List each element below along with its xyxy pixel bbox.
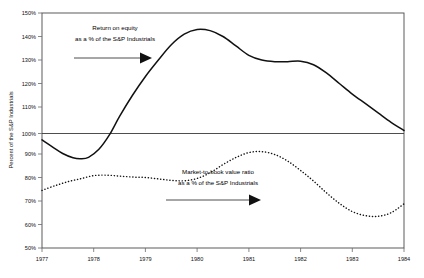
plot-area-frame xyxy=(42,13,404,248)
roe-annotation-arrow-icon xyxy=(140,53,152,64)
y-tick-label-110: 110% xyxy=(22,104,36,110)
x-tick-label-1984: 1984 xyxy=(398,256,410,262)
y-axis-ticks xyxy=(38,13,42,248)
y-tick-label-140: 140% xyxy=(22,34,36,40)
chart-container: 150% 140% 130% 120% 110% 100% 90% 80% 70… xyxy=(0,0,424,278)
series-return-on-equity xyxy=(42,29,404,158)
y-axis-title: Percent of the S&P Industrials xyxy=(8,91,14,168)
x-tick-label-1979: 1979 xyxy=(139,256,151,262)
x-tick-label-1977: 1977 xyxy=(36,256,48,262)
x-axis-tick-labels: 1977 1978 1979 1980 1981 1982 1983 1984 xyxy=(36,256,410,262)
x-tick-label-1983: 1983 xyxy=(346,256,358,262)
y-axis-tick-labels: 150% 140% 130% 120% 110% 100% 90% 80% 70… xyxy=(22,10,36,251)
chart-canvas: 150% 140% 130% 120% 110% 100% 90% 80% 70… xyxy=(0,0,424,278)
mtb-annotation-line2: as a % of the S&P Industrials xyxy=(178,179,258,186)
x-tick-label-1981: 1981 xyxy=(243,256,255,262)
y-tick-label-80: 80% xyxy=(25,175,36,181)
roe-annotation: Return on equity as a % of the S&P Indus… xyxy=(74,24,155,64)
y-tick-label-120: 120% xyxy=(22,81,36,87)
y-tick-label-50: 50% xyxy=(25,245,36,251)
y-tick-label-100: 100% xyxy=(22,131,36,137)
x-tick-label-1980: 1980 xyxy=(191,256,203,262)
mtb-annotation-arrow-icon xyxy=(249,195,261,206)
y-tick-label-60: 60% xyxy=(25,222,36,228)
x-tick-label-1978: 1978 xyxy=(87,256,99,262)
x-axis-ticks xyxy=(42,248,404,252)
mtb-annotation: Market-to-book value ratio as a % of the… xyxy=(166,168,261,206)
x-tick-label-1982: 1982 xyxy=(294,256,306,262)
roe-annotation-line1: Return on equity xyxy=(92,24,138,31)
mtb-annotation-line1: Market-to-book value ratio xyxy=(182,168,254,175)
y-tick-label-70: 70% xyxy=(25,198,36,204)
y-tick-label-150: 150% xyxy=(22,10,36,16)
y-tick-label-130: 130% xyxy=(22,57,36,63)
y-tick-label-90: 90% xyxy=(25,151,36,157)
roe-annotation-line2: as a % of the S&P Industrials xyxy=(75,35,155,42)
